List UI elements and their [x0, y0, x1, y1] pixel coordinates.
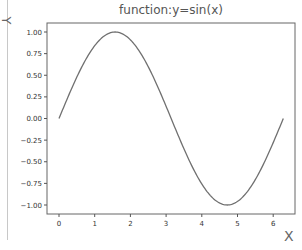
svg-text:5: 5: [235, 220, 239, 228]
svg-text:−0.25: −0.25: [21, 137, 42, 145]
svg-text:2: 2: [128, 220, 132, 228]
svg-text:3: 3: [164, 220, 168, 228]
svg-text:0.25: 0.25: [26, 93, 42, 101]
svg-text:6: 6: [271, 220, 276, 228]
sine-curve: [59, 32, 283, 205]
svg-text:1.00: 1.00: [26, 29, 42, 37]
svg-text:0.00: 0.00: [26, 115, 42, 123]
svg-text:0.75: 0.75: [26, 50, 42, 58]
svg-text:−0.75: −0.75: [21, 180, 42, 188]
svg-text:−0.50: −0.50: [21, 158, 42, 166]
svg-text:4: 4: [200, 220, 205, 228]
svg-text:0.50: 0.50: [26, 72, 42, 80]
plot-area: 0123456 1.000.750.500.250.00−0.25−0.50−0…: [0, 0, 302, 250]
svg-text:1: 1: [92, 220, 96, 228]
svg-text:0: 0: [57, 220, 61, 228]
svg-text:−1.00: −1.00: [21, 202, 42, 210]
y-ticks: 1.000.750.500.250.00−0.25−0.50−0.75−1.00: [21, 29, 47, 210]
x-ticks: 0123456: [57, 214, 276, 228]
